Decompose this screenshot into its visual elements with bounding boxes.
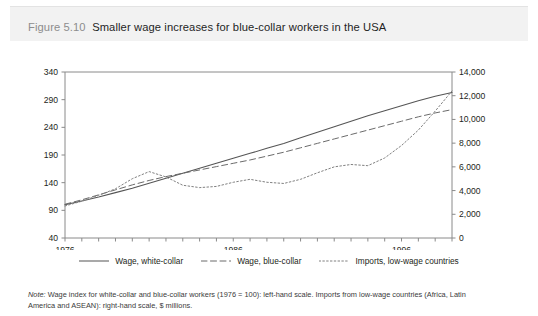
legend-label: Wage, blue-collar xyxy=(237,256,301,266)
note-divider xyxy=(10,283,528,284)
legend-swatch-solid xyxy=(79,257,109,265)
svg-text:4,000: 4,000 xyxy=(459,186,481,196)
legend-label: Wage, white-collar xyxy=(115,256,183,266)
svg-text:1986: 1986 xyxy=(224,245,243,250)
svg-text:10,000: 10,000 xyxy=(459,114,486,124)
legend-item-2[interactable]: Wage, blue-collar xyxy=(201,256,301,266)
legend-swatch-dashed xyxy=(201,257,231,265)
svg-text:240: 240 xyxy=(44,122,59,132)
figure-card: Figure 5.10 Smaller wage increases for b… xyxy=(0,0,538,316)
svg-text:8,000: 8,000 xyxy=(459,138,481,148)
svg-text:6,000: 6,000 xyxy=(459,162,481,172)
svg-text:0: 0 xyxy=(459,233,464,243)
svg-text:12,000: 12,000 xyxy=(459,91,486,101)
chart-axes xyxy=(62,72,456,242)
chart-series xyxy=(65,91,452,206)
svg-text:2,000: 2,000 xyxy=(459,209,481,219)
legend-item-3[interactable]: Imports, low-wage countries xyxy=(319,256,458,266)
svg-text:140: 140 xyxy=(44,178,59,188)
svg-text:1976: 1976 xyxy=(55,245,74,250)
chart-tick-labels: 409014019024029034002,0004,0006,0008,000… xyxy=(44,67,486,250)
svg-text:340: 340 xyxy=(44,67,59,77)
legend-row: Wage, white-collarWage, blue-collarImpor… xyxy=(0,256,538,266)
svg-text:290: 290 xyxy=(44,95,59,105)
svg-text:190: 190 xyxy=(44,150,59,160)
note-label: Note: xyxy=(28,290,46,299)
svg-text:90: 90 xyxy=(48,205,58,215)
figure-note: Note: Wage index for white-collar and bl… xyxy=(28,290,488,311)
svg-text:40: 40 xyxy=(48,233,58,243)
chart-legend: Wage, white-collarWage, blue-collarImpor… xyxy=(0,256,538,272)
svg-text:1996: 1996 xyxy=(392,245,411,250)
note-text: Wage index for white-collar and blue-col… xyxy=(28,290,466,310)
svg-text:14,000: 14,000 xyxy=(459,67,486,77)
series-line-dashed xyxy=(65,110,452,205)
legend-label: Imports, low-wage countries xyxy=(355,256,458,266)
legend-item-1[interactable]: Wage, white-collar xyxy=(79,256,183,266)
legend-swatch-dotted xyxy=(319,257,349,265)
line-chart: 409014019024029034002,0004,0006,0008,000… xyxy=(0,0,538,250)
